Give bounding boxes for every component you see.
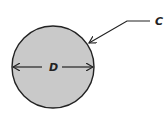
circumference-leader-arrow [89, 21, 150, 43]
diameter-label: D [49, 61, 58, 74]
circumference-label: C [155, 15, 163, 28]
circle-diagram: D C [0, 0, 168, 115]
